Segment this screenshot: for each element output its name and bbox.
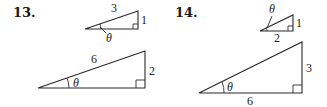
hypotenuse-label: 6: [91, 52, 97, 66]
problem-number: 13.: [13, 5, 36, 20]
opposite-label: 1: [141, 13, 147, 27]
opposite-label: 2: [149, 64, 155, 78]
problem-14: 14. θ 1 2 3 6 θ: [175, 2, 312, 107]
opposite-label: 1: [296, 16, 302, 30]
angle-label: θ: [227, 80, 233, 94]
triangle-outline: [199, 42, 302, 93]
adjacent-label: 2: [274, 31, 280, 45]
angle-arc: [222, 82, 224, 93]
opposite-label: 3: [306, 61, 312, 75]
small-triangle: 3 1 θ: [85, 1, 147, 45]
large-triangle: 3 6 θ: [199, 42, 312, 107]
similar-triangles-figure: 13. 3 1 θ 6 2 θ 14. θ: [0, 0, 327, 107]
right-angle-marker: [136, 80, 145, 88]
right-angle-marker: [293, 85, 302, 93]
adjacent-label: 6: [247, 94, 253, 107]
angle-label: θ: [106, 31, 112, 45]
problem-13: 13. 3 1 θ 6 2 θ: [13, 1, 155, 90]
angle-label: θ: [269, 2, 275, 16]
small-triangle: θ 1 2: [260, 2, 302, 45]
angle-label: θ: [73, 76, 79, 90]
hypotenuse-label: 3: [111, 1, 117, 15]
large-triangle: 6 2 θ: [38, 51, 155, 90]
problem-number: 14.: [175, 5, 198, 20]
right-angle-marker: [288, 26, 293, 31]
angle-arc: [67, 78, 69, 88]
right-angle-marker: [133, 24, 138, 29]
